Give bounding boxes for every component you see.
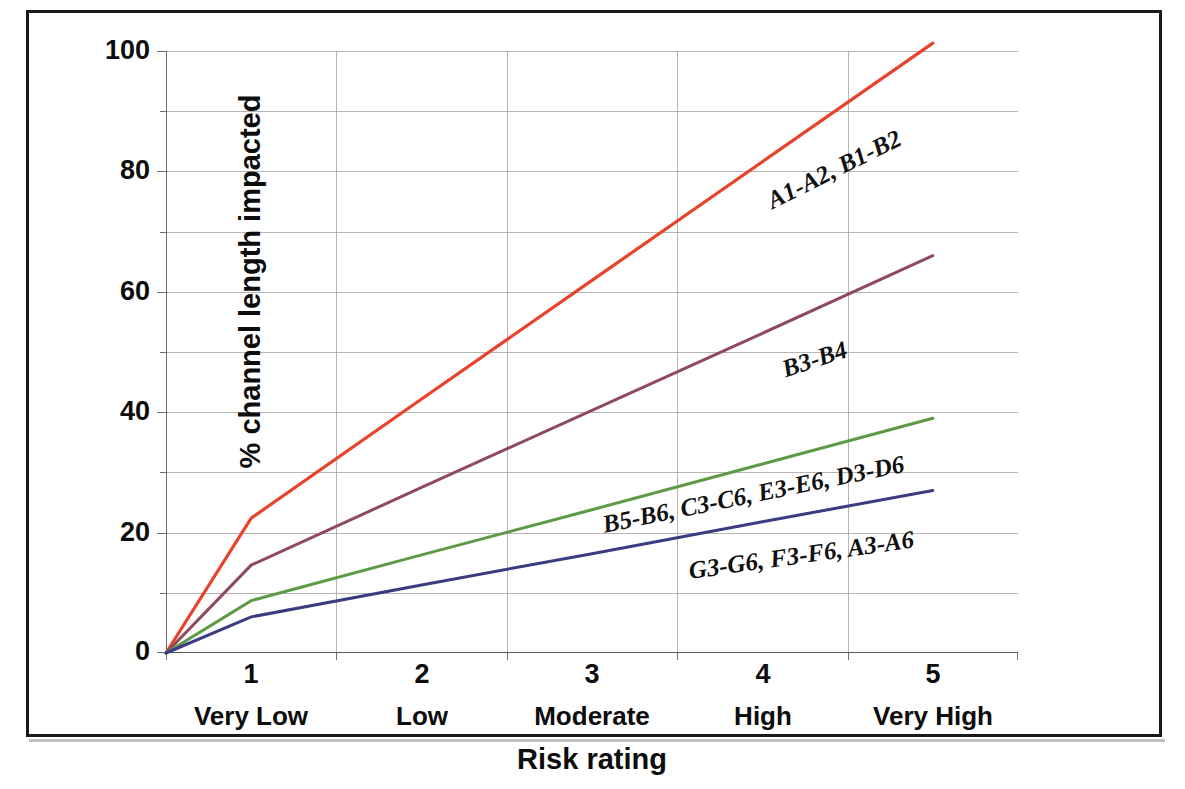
xtick-3 [677, 653, 678, 660]
ytick-40 [157, 412, 166, 413]
xtick-5 [1017, 653, 1018, 660]
ytick-label-0: 0 [80, 638, 150, 665]
ytick-60 [157, 292, 166, 293]
ytick-label-80: 80 [80, 157, 150, 184]
chart-figure: 100 80 60 40 20 0 % channel length impac… [0, 0, 1185, 789]
xtick-label-1: 1 [191, 659, 311, 690]
ytick-label-100: 100 [80, 37, 150, 64]
ytick-20 [157, 533, 166, 534]
xcat-label-very-low: Very Low [151, 701, 351, 732]
xtick-4 [848, 653, 849, 660]
xtick-label-4: 4 [703, 659, 823, 690]
x-axis-title: Risk rating [392, 743, 792, 776]
xtick-2 [507, 653, 508, 660]
xtick-label-2: 2 [362, 659, 482, 690]
ytick-label-20: 20 [80, 519, 150, 546]
xtick-label-5: 5 [873, 659, 993, 690]
plot-area: 100 80 60 40 20 0 % channel length impac… [166, 51, 1018, 653]
ytick-label-40: 40 [80, 398, 150, 425]
series-line-green [166, 418, 933, 653]
xtick-label-3: 3 [532, 659, 652, 690]
series-line-navy [166, 490, 933, 653]
ytick-80 [157, 171, 166, 172]
xcat-label-moderate: Moderate [492, 701, 692, 732]
xtick-1 [336, 653, 337, 660]
ytick-label-60: 60 [80, 278, 150, 305]
page-frame-shadow [29, 739, 1165, 742]
ytick-100 [157, 51, 166, 52]
xcat-label-very-high: Very High [833, 701, 1033, 732]
